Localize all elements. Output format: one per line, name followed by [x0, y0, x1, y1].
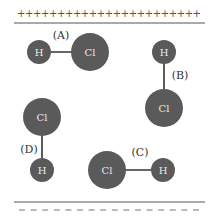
atom-label: Cl: [159, 103, 170, 114]
atom-label: H: [159, 165, 168, 176]
molecule-c: Cl H (C): [88, 146, 175, 190]
molecule-label: (C): [132, 146, 149, 159]
atom-label: H: [160, 47, 169, 58]
bottom-plate: [14, 202, 205, 210]
molecule-label: (D): [20, 143, 37, 156]
atom-label: H: [35, 47, 44, 58]
top-plate: +++++++++++++++++++++++: [14, 8, 205, 23]
atom-label: H: [38, 165, 47, 176]
atom-label: Cl: [85, 47, 96, 58]
molecule-label: (B): [172, 69, 189, 82]
molecule-label: (A): [53, 29, 70, 42]
molecule-a: H Cl (A): [27, 29, 109, 72]
atom-label: Cl: [102, 165, 113, 176]
molecule-b: H Cl (B): [145, 40, 188, 127]
diagram-canvas: +++++++++++++++++++++++ H Cl (A) H Cl (B…: [0, 0, 217, 219]
atom-label: Cl: [37, 112, 48, 123]
molecule-d: Cl H (D): [20, 98, 61, 182]
positive-charges: +++++++++++++++++++++++: [17, 8, 201, 19]
